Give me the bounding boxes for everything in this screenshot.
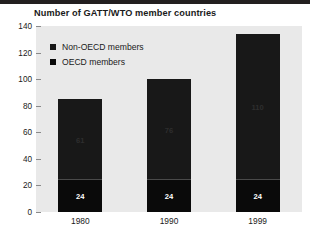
legend-item-label: Non-OECD members xyxy=(62,42,144,52)
chart-legend: Non-OECD membersOECD members xyxy=(50,42,144,72)
y-axis-tick-mark xyxy=(36,26,41,27)
legend-item-label: OECD members xyxy=(62,57,125,67)
y-axis-tick-mark xyxy=(36,132,41,133)
x-axis-tick-label: 1999 xyxy=(248,216,267,226)
y-axis-tick-label: 120 xyxy=(6,48,32,57)
bar-segment-non-oecd[interactable]: 61 xyxy=(58,99,102,180)
y-axis-tick-label: 20 xyxy=(6,181,32,190)
x-axis-tick-label: 1980 xyxy=(71,216,90,226)
chart-figure: Number of GATT/WTO member countries 0204… xyxy=(0,0,310,237)
y-axis: 020406080100120140 xyxy=(0,26,32,212)
y-axis-tick-label: 60 xyxy=(6,128,32,137)
y-axis-tick-label: 140 xyxy=(6,22,32,31)
y-axis-tick-label: 40 xyxy=(6,154,32,163)
bar-segment-oecd[interactable]: 24 xyxy=(236,179,280,212)
y-axis-tick-mark xyxy=(36,79,41,80)
top-decorative-band xyxy=(0,0,310,4)
bar-segment-non-oecd[interactable]: 76 xyxy=(147,79,191,180)
bar-segment-oecd[interactable]: 24 xyxy=(58,179,102,212)
bar-value-label-non-oecd: 110 xyxy=(236,103,280,112)
y-axis-tick-mark xyxy=(36,185,41,186)
legend-swatch-icon xyxy=(50,44,56,50)
bar-segment-non-oecd[interactable]: 110 xyxy=(236,34,280,180)
bar-group[interactable]: 6124 xyxy=(58,99,102,212)
bar-group[interactable]: 7624 xyxy=(147,79,191,212)
legend-item[interactable]: OECD members xyxy=(50,57,144,67)
y-axis-tick-label: 100 xyxy=(6,75,32,84)
bar-group[interactable]: 11024 xyxy=(236,34,280,212)
bar-segment-oecd[interactable]: 24 xyxy=(147,179,191,212)
y-axis-tick-mark xyxy=(36,159,41,160)
y-axis-tick-label: 0 xyxy=(6,208,32,217)
chart-title: Number of GATT/WTO member countries xyxy=(34,8,216,18)
bar-value-label-non-oecd: 61 xyxy=(58,135,102,144)
bar-value-label-non-oecd: 76 xyxy=(147,125,191,134)
bar-value-label-oecd: 24 xyxy=(147,192,191,201)
y-axis-tick-mark xyxy=(36,53,41,54)
bar-value-label-oecd: 24 xyxy=(236,192,280,201)
y-axis-tick-mark xyxy=(36,106,41,107)
legend-swatch-icon xyxy=(50,59,56,65)
x-axis-tick-label: 1990 xyxy=(160,216,179,226)
legend-item[interactable]: Non-OECD members xyxy=(50,42,144,52)
bar-value-label-oecd: 24 xyxy=(58,192,102,201)
y-axis-tick-label: 80 xyxy=(6,101,32,110)
y-axis-tick-mark xyxy=(36,212,41,213)
